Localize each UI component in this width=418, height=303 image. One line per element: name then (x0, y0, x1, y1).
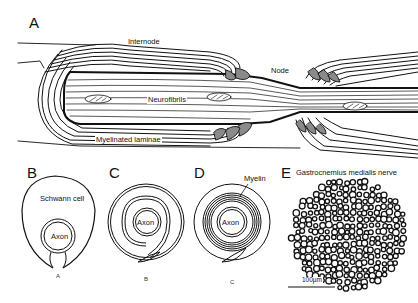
panel-letter-e: E (281, 165, 291, 180)
label-axon-d: Axon (222, 219, 239, 227)
label-myelinated-laminae: Myelinated laminae (95, 136, 162, 144)
label-scale-bar: 100µm (301, 277, 323, 284)
label-node: Node (271, 67, 289, 75)
label-axon-b: Axon (51, 233, 68, 241)
panel-a-drawing (0, 0, 418, 303)
sub-caption-b: A (56, 273, 60, 279)
panel-e-drawing (288, 179, 406, 292)
label-internode: Internode (128, 38, 160, 46)
sub-caption-d: C (230, 279, 234, 285)
label-neurofibrils: Neurofibrils (147, 96, 187, 104)
panel-b-drawing (22, 176, 95, 268)
panel-letter-b: B (27, 165, 37, 180)
panel-letter-d: D (194, 165, 205, 180)
sub-caption-c: B (144, 276, 148, 282)
label-schwann-cell: Schwann cell (40, 195, 84, 203)
myelin-figure: A B C D E Internode Node Neurofibrils My… (0, 0, 418, 303)
panel-letter-c: C (109, 165, 120, 180)
panel-letter-a: A (29, 15, 39, 30)
label-nerve-title: Gastrocnemius medialis nerve (296, 169, 397, 177)
label-axon-c: Axon (137, 219, 154, 227)
label-myelin: Myelin (244, 175, 266, 183)
